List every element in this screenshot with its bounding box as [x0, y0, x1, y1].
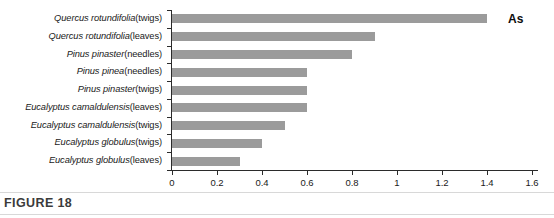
x-axis-tick-label: 0.8 — [345, 177, 358, 188]
category-label: Eucalyptus globulus (twigs) — [0, 134, 168, 152]
x-axis-tick-label: 1.2 — [435, 177, 448, 188]
bar-row — [172, 152, 532, 170]
x-axis-tick — [442, 170, 443, 175]
caption-bottom-rule — [0, 214, 554, 215]
plant-part: (needles) — [124, 67, 162, 77]
bar — [172, 139, 262, 148]
bar — [172, 14, 487, 23]
species-name: Pinus pinaster — [67, 50, 125, 60]
bar — [172, 32, 375, 41]
x-axis-tick — [487, 170, 488, 175]
y-axis-line — [171, 10, 172, 170]
y-axis-tick — [167, 117, 172, 118]
species-name: Eucalyptus camaldulensis — [25, 103, 130, 113]
species-name: Pinus pinea — [77, 67, 125, 77]
y-axis-tick — [167, 152, 172, 153]
x-axis-tick-label: 1.4 — [480, 177, 493, 188]
x-axis-line — [171, 170, 538, 171]
category-label: Quercus rotundifolia (twigs) — [0, 10, 168, 28]
x-axis-tick-label: 0.4 — [255, 177, 268, 188]
y-axis-tick — [167, 28, 172, 29]
x-axis-tick-label: 1 — [394, 177, 399, 188]
bar-row — [172, 117, 532, 135]
x-axis-tick — [532, 170, 533, 175]
category-label: Pinus pinaster (needles) — [0, 46, 168, 64]
x-axis-tick — [352, 170, 353, 175]
x-axis-tick — [172, 170, 173, 175]
category-label: Eucalyptus camaldulensis (twigs) — [0, 117, 168, 135]
plant-part: (leaves) — [130, 103, 162, 113]
category-label: Eucalyptus globulus (leaves) — [0, 152, 168, 170]
bar-row — [172, 81, 532, 99]
caption-top-rule — [0, 192, 554, 193]
bar-row — [172, 28, 532, 46]
plant-part: (leaves) — [130, 156, 162, 166]
species-name: Quercus rotundifolia — [54, 14, 135, 24]
plant-part: (twigs) — [135, 138, 162, 148]
y-axis-tick — [167, 10, 172, 11]
bar — [172, 68, 307, 77]
x-axis-tick — [397, 170, 398, 175]
plant-part: (twigs) — [135, 121, 162, 131]
category-label: Quercus rotundifolia (leaves) — [0, 28, 168, 46]
bar — [172, 50, 352, 59]
bar-row — [172, 46, 532, 64]
plant-part: (twigs) — [135, 85, 162, 95]
x-axis-tick-label: 0.2 — [210, 177, 223, 188]
x-axis-tick — [262, 170, 263, 175]
y-axis-tick — [167, 81, 172, 82]
bar-row — [172, 10, 532, 28]
species-name: Pinus pinaster — [78, 85, 136, 95]
x-axis-tick-label: 0 — [169, 177, 174, 188]
plant-part: (leaves) — [130, 32, 162, 42]
bar-row — [172, 134, 532, 152]
figure-18-container: Quercus rotundifolia (twigs)Quercus rotu… — [0, 0, 554, 218]
bar-series-As — [172, 10, 532, 170]
bar-row — [172, 99, 532, 117]
category-label: Eucalyptus camaldulensis (leaves) — [0, 99, 168, 117]
x-axis-tick — [217, 170, 218, 175]
species-name: Eucalyptus camaldulensis — [31, 121, 136, 131]
category-label: Pinus pinea (needles) — [0, 63, 168, 81]
x-axis-tick — [307, 170, 308, 175]
bar — [172, 121, 285, 130]
bar — [172, 157, 240, 166]
species-name: Eucalyptus globulus — [55, 138, 136, 148]
category-label: Pinus pinaster (twigs) — [0, 81, 168, 99]
series-legend-label: As — [508, 12, 524, 26]
plot-area: 00.20.40.60.811.21.41.6 — [172, 10, 538, 170]
y-axis-tick — [167, 99, 172, 100]
species-name: Eucalyptus globulus — [49, 156, 130, 166]
bar — [172, 103, 307, 112]
y-axis-category-labels: Quercus rotundifolia (twigs)Quercus rotu… — [0, 10, 168, 170]
y-axis-tick — [167, 46, 172, 47]
x-axis-tick-label: 0.6 — [300, 177, 313, 188]
bar-chart: Quercus rotundifolia (twigs)Quercus rotu… — [0, 0, 554, 190]
y-axis-tick — [167, 63, 172, 64]
bar — [172, 86, 307, 95]
plant-part: (needles) — [124, 50, 162, 60]
bar-row — [172, 63, 532, 81]
plant-part: (twigs) — [135, 14, 162, 24]
figure-caption: FIGURE 18 — [4, 196, 72, 210]
species-name: Quercus rotundifolia — [49, 32, 130, 42]
y-axis-tick — [167, 134, 172, 135]
x-axis-tick-label: 1.6 — [525, 177, 538, 188]
